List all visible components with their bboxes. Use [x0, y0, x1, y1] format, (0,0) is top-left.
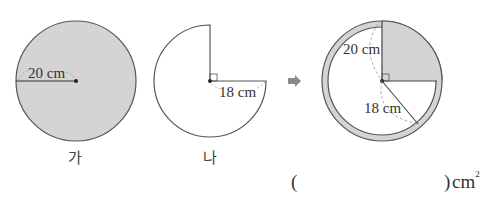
figure-label-na: 나: [203, 151, 217, 166]
radius-label-na: 18 cm: [219, 85, 256, 100]
answer-input-area[interactable]: [305, 168, 440, 194]
unit-exponent: 2: [475, 169, 480, 179]
circle-ga: [16, 21, 136, 141]
sector-na: [154, 25, 266, 137]
answer-unit: cm2: [452, 172, 480, 191]
radius-label-ga: 20 cm: [28, 66, 65, 81]
figure-label-ga: 가: [68, 151, 82, 166]
inner-radius-label: 18 cm: [364, 101, 401, 116]
answer-close-paren: ): [444, 172, 450, 191]
outer-radius-label: 20 cm: [343, 42, 380, 57]
answer-open-paren: (: [291, 172, 297, 191]
combined-figure: [322, 21, 442, 141]
arrow-icon: [288, 75, 301, 87]
unit-text: cm: [452, 171, 475, 192]
